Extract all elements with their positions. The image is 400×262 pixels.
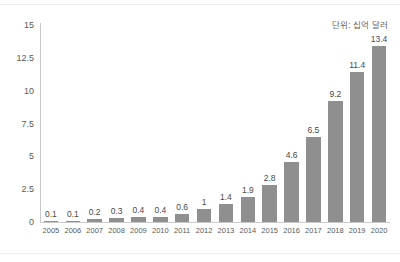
bar-group: 1.4 — [219, 25, 233, 222]
x-axis-tick-label: 2005 — [43, 226, 60, 235]
x-axis-tick-label: 2009 — [130, 226, 147, 235]
x-axis-tick-label: 2017 — [305, 226, 322, 235]
bar[interactable] — [328, 101, 342, 222]
x-axis-tick-label: 2014 — [239, 226, 256, 235]
bar[interactable] — [109, 218, 123, 222]
bar[interactable] — [241, 197, 255, 222]
y-axis-tick-label: 10 — [4, 86, 34, 96]
bar-value-label: 0.1 — [45, 209, 57, 219]
bar-group: 1.9 — [241, 25, 255, 222]
figure-top-rule — [0, 4, 400, 5]
bar[interactable] — [44, 221, 58, 222]
x-axis-tick-label: 2011 — [174, 226, 190, 235]
x-axis-tick-label: 2006 — [64, 226, 81, 235]
x-axis-tick-label: 2013 — [218, 226, 235, 235]
bar-group: 9.2 — [328, 25, 342, 222]
bar-group: 6.5 — [306, 25, 320, 222]
bar[interactable] — [66, 221, 80, 222]
x-axis-line — [40, 222, 390, 223]
bar-group: 0.3 — [109, 25, 123, 222]
chart-figure: 단위: 십억 달러 02.557.51012.5150.10.10.20.30.… — [0, 0, 400, 262]
bar-value-label: 0.1 — [67, 209, 79, 219]
bar[interactable] — [197, 209, 211, 222]
bar-value-label: 9.2 — [329, 89, 341, 99]
y-axis-tick-label: 0 — [4, 217, 34, 227]
bar[interactable] — [153, 217, 167, 222]
x-axis-tick-label: 2007 — [86, 226, 103, 235]
bar-group: 13.4 — [372, 25, 386, 222]
y-axis-tick-label: 15 — [4, 20, 34, 30]
bar-value-label: 1.4 — [220, 192, 232, 202]
bar-value-label: 13.4 — [371, 34, 388, 44]
y-axis-tick-label: 7.5 — [4, 119, 34, 129]
bar[interactable] — [262, 185, 276, 222]
bar-group: 0.4 — [153, 25, 167, 222]
x-axis-tick-label: 2015 — [261, 226, 278, 235]
bar[interactable] — [87, 219, 101, 222]
bar-value-label: 0.4 — [154, 205, 166, 215]
bar[interactable] — [372, 46, 386, 222]
bar-group: 0.1 — [44, 25, 58, 222]
bar-value-label: 1 — [202, 197, 207, 207]
y-axis-tick-label: 2.5 — [4, 184, 34, 194]
bar-group: 11.4 — [350, 25, 364, 222]
x-axis-tick-label: 2019 — [349, 226, 366, 235]
bar-group: 0.1 — [66, 25, 80, 222]
bar-group: 1 — [197, 25, 211, 222]
bar-value-label: 0.3 — [111, 206, 123, 216]
bar-value-label: 6.5 — [308, 125, 320, 135]
bar[interactable] — [131, 217, 145, 222]
bar-value-label: 0.2 — [89, 207, 101, 217]
bar-value-label: 4.6 — [286, 150, 298, 160]
bar-value-label: 11.4 — [349, 60, 365, 70]
x-axis-tick-label: 2010 — [152, 226, 169, 235]
figure-bottom-rule — [0, 253, 400, 254]
bar-value-label: 1.9 — [242, 185, 254, 195]
y-axis-tick-label: 12.5 — [4, 53, 34, 63]
x-axis-tick-label: 2020 — [371, 226, 388, 235]
bar-value-label: 2.8 — [264, 173, 276, 183]
bar-value-label: 0.6 — [176, 202, 188, 212]
bar[interactable] — [306, 137, 320, 222]
bar-group: 0.2 — [87, 25, 101, 222]
bar-value-label: 0.4 — [133, 205, 145, 215]
y-axis-tick-label: 5 — [4, 151, 34, 161]
x-axis-tick-label: 2008 — [108, 226, 125, 235]
bar-group: 0.4 — [131, 25, 145, 222]
x-axis-tick-label: 2012 — [196, 226, 213, 235]
bar[interactable] — [219, 204, 233, 222]
x-axis-tick-label: 2016 — [283, 226, 300, 235]
bar-group: 4.6 — [284, 25, 298, 222]
bar[interactable] — [284, 162, 298, 222]
x-axis-tick-label: 2018 — [327, 226, 344, 235]
bar-group: 0.6 — [175, 25, 189, 222]
plot-area: 02.557.51012.5150.10.10.20.30.40.40.611.… — [40, 25, 390, 222]
bar[interactable] — [350, 72, 364, 222]
bar[interactable] — [175, 214, 189, 222]
bar-group: 2.8 — [262, 25, 276, 222]
